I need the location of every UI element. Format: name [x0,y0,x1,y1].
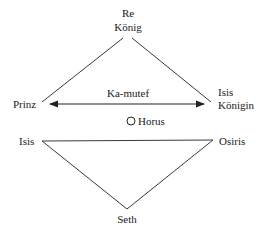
line-isis-seth [42,141,127,209]
label-seth: Seth [107,213,147,225]
label-koenigin: Königin [218,99,254,111]
circle-icon [127,117,135,125]
line-osiris-seth [127,140,213,209]
label-koenig: König [108,21,148,33]
label-horus: Horus [138,115,165,127]
label-isis-bottom: Isis [19,135,34,147]
line-isis-osiris [42,140,213,141]
label-prinz: Prinz [13,98,36,110]
diagram-lines [0,0,266,232]
label-re: Re [108,7,148,19]
label-osiris: Osiris [219,135,245,147]
label-isis-top: Isis [218,86,233,98]
label-ka-mutef: Ka-mutef [107,87,149,99]
